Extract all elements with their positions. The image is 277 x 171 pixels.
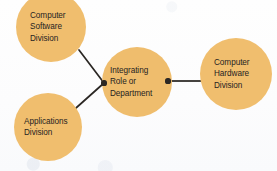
node-label-line: Computer	[214, 57, 250, 68]
connector-software-to-integrating	[79, 50, 104, 83]
left-junction-dot	[101, 80, 106, 85]
node-label-line: Division	[30, 33, 58, 44]
node-label-line: Integrating	[110, 65, 148, 76]
connector-applications-to-integrating	[76, 83, 104, 108]
node-applications-division[interactable]: Applications Division	[14, 93, 82, 161]
node-label-line: Applications	[24, 116, 68, 127]
node-computer-hardware-division[interactable]: Computer Hardware Division	[200, 38, 272, 110]
node-label-line: Software	[30, 21, 62, 32]
node-integrating-role-or-department[interactable]: Integrating Role or Department	[102, 47, 172, 117]
node-label-line: Computer	[30, 10, 66, 21]
diagram-canvas: Computer Software Division Applications …	[0, 0, 277, 171]
right-junction-dot	[165, 78, 170, 83]
node-label-line: Department	[110, 88, 152, 99]
node-label-line: Division	[214, 80, 242, 91]
node-label-line: Hardware	[214, 68, 249, 79]
node-label-line: Role or	[110, 76, 136, 87]
node-label-line: Division	[24, 127, 52, 138]
